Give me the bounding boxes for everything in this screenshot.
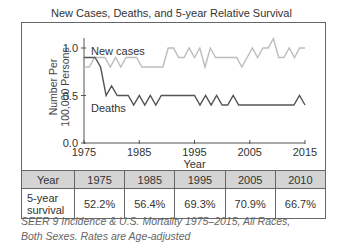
- table-header-cell: 1995: [175, 171, 225, 189]
- caption-line1: SEER 9 Incidence & U.S. Mortality 1975–2…: [21, 214, 290, 229]
- table-header-cell: 1985: [125, 171, 175, 189]
- y-axis-label-line1: Number Per: [47, 37, 59, 137]
- source-caption: SEER 9 Incidence & U.S. Mortality 1975–2…: [21, 214, 290, 244]
- table-header-cell: Year: [22, 171, 75, 189]
- table-header-cell: 2010: [275, 171, 325, 189]
- table-header-cell: 1975: [75, 171, 125, 189]
- x-axis-label: Year: [183, 158, 206, 170]
- row-label-line1: 5-year: [27, 192, 74, 204]
- deaths-line: [84, 58, 305, 106]
- caption-line2: Both Sexes. Rates are Age-adjusted: [21, 229, 290, 244]
- table-header-cell: 2005: [225, 171, 275, 189]
- x-tick-label: 1985: [127, 146, 151, 158]
- x-tick-label: 2015: [293, 146, 317, 158]
- y-axis-label: Number Per 100,000 Persons: [47, 37, 73, 137]
- y-tick-label: 0.0: [63, 137, 78, 149]
- survival-table: Year 1975 1985 1995 2005 2010 5-year sur…: [21, 170, 326, 219]
- deaths-label: Deaths: [91, 102, 126, 114]
- x-tick-label: 1995: [182, 146, 206, 158]
- new-cases-label: New cases: [91, 45, 145, 57]
- x-tick-label: 2005: [238, 146, 262, 158]
- y-axis-label-line2: 100,000 Persons: [59, 37, 71, 137]
- table-header-row: Year 1975 1985 1995 2005 2010: [22, 171, 326, 189]
